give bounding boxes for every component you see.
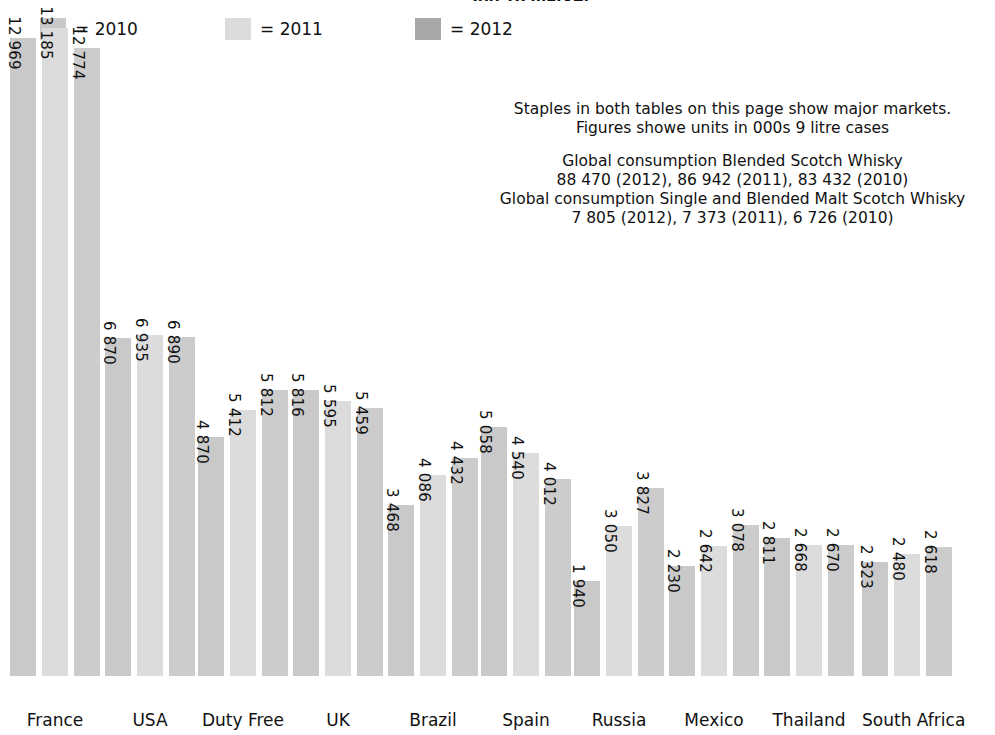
bar-duty-free-2010[interactable]: 4 870 xyxy=(198,437,224,676)
bar-group-duty-free: 4 8705 4125 812 xyxy=(198,0,288,676)
bar-brazil-2011[interactable]: 4 086 xyxy=(420,475,446,676)
bar-group-mexico: 2 2302 6423 078 xyxy=(669,0,759,676)
bar-uk-2011[interactable]: 5 595 xyxy=(325,401,351,676)
bar-value-label: 2 670 xyxy=(823,528,841,572)
x-tick-label-spain: Spain xyxy=(481,710,571,730)
bar-value-label: 5 459 xyxy=(352,391,370,435)
bar-value-label: 2 668 xyxy=(791,528,809,572)
bar-value-label: 2 642 xyxy=(696,529,714,573)
bar-value-label: 5 412 xyxy=(225,393,243,437)
bar-group-brazil: 3 4684 0864 432 xyxy=(388,0,478,676)
bar-value-label: 3 078 xyxy=(728,508,746,552)
bar-value-label: 5 812 xyxy=(257,373,275,417)
bar-brazil-2010[interactable]: 3 468 xyxy=(388,505,414,676)
bar-value-label: 2 323 xyxy=(857,545,875,589)
bar-mexico-2012[interactable]: 3 078 xyxy=(733,525,759,676)
bar-value-label: 3 827 xyxy=(633,471,651,515)
bar-mexico-2010[interactable]: 2 230 xyxy=(669,566,695,676)
x-tick-label-brazil: Brazil xyxy=(388,710,478,730)
bar-south-africa-2011[interactable]: 2 480 xyxy=(894,554,920,676)
bar-group-usa: 6 8706 9356 890 xyxy=(105,0,195,676)
bar-value-label: 12 969 xyxy=(5,16,23,70)
bar-brazil-2012[interactable]: 4 432 xyxy=(452,458,478,676)
bar-value-label: 12 774 xyxy=(69,26,87,80)
x-tick-label-duty-free: Duty Free xyxy=(198,710,288,730)
bar-value-label: 2 618 xyxy=(921,530,939,574)
bar-russia-2011[interactable]: 3 050 xyxy=(606,526,632,676)
bar-value-label: 3 050 xyxy=(601,509,619,553)
bar-usa-2012[interactable]: 6 890 xyxy=(169,337,195,676)
bar-uk-2010[interactable]: 5 816 xyxy=(293,390,319,676)
x-tick-label-uk: UK xyxy=(293,710,383,730)
bar-spain-2011[interactable]: 4 540 xyxy=(513,453,539,676)
bar-value-label: 2 811 xyxy=(759,521,777,565)
bar-value-label: 4 540 xyxy=(508,436,526,480)
bar-south-africa-2012[interactable]: 2 618 xyxy=(926,547,952,676)
chart-plot-area: 12 96913 18512 7746 8706 9356 8904 8705 … xyxy=(0,0,995,706)
bar-duty-free-2011[interactable]: 5 412 xyxy=(230,410,256,676)
bar-group-uk: 5 8165 5955 459 xyxy=(293,0,383,676)
bar-value-label: 5 058 xyxy=(476,410,494,454)
bar-group-france: 12 96913 18512 774 xyxy=(10,0,100,676)
x-tick-label-russia: Russia xyxy=(574,710,664,730)
bar-spain-2010[interactable]: 5 058 xyxy=(481,427,507,676)
bar-thailand-2010[interactable]: 2 811 xyxy=(764,538,790,676)
bar-value-label: 4 086 xyxy=(415,458,433,502)
bar-value-label: 6 870 xyxy=(100,321,118,365)
x-tick-label-mexico: Mexico xyxy=(669,710,759,730)
bar-value-label: 13 185 xyxy=(37,6,55,60)
x-tick-label-thailand: Thailand xyxy=(764,710,854,730)
bar-france-2011[interactable]: 13 185 xyxy=(42,28,68,676)
bar-value-label: 4 012 xyxy=(540,462,558,506)
bar-usa-2011[interactable]: 6 935 xyxy=(137,335,163,676)
bar-group-spain: 5 0584 5404 012 xyxy=(481,0,571,676)
bar-value-label: 4 432 xyxy=(447,441,465,485)
bar-russia-2012[interactable]: 3 827 xyxy=(638,488,664,676)
x-tick-label-france: France xyxy=(10,710,100,730)
x-tick-label-south-africa: South Africa xyxy=(862,710,952,730)
bar-group-south-africa: 2 3232 4802 618 xyxy=(862,0,952,676)
bar-value-label: 6 935 xyxy=(132,318,150,362)
bar-spain-2012[interactable]: 4 012 xyxy=(545,479,571,676)
bar-thailand-2012[interactable]: 2 670 xyxy=(828,545,854,676)
bar-group-thailand: 2 8112 6682 670 xyxy=(764,0,854,676)
chart-x-axis: FranceUSADuty FreeUKBrazilSpainRussiaMex… xyxy=(0,706,995,735)
bar-value-label: 1 940 xyxy=(569,564,587,608)
bar-thailand-2011[interactable]: 2 668 xyxy=(796,545,822,676)
bar-duty-free-2012[interactable]: 5 812 xyxy=(262,390,288,676)
bar-value-label: 3 468 xyxy=(383,489,401,533)
x-tick-label-usa: USA xyxy=(105,710,195,730)
bar-value-label: 4 870 xyxy=(193,420,211,464)
bar-france-2012[interactable]: 12 774 xyxy=(74,48,100,676)
bar-usa-2010[interactable]: 6 870 xyxy=(105,338,131,676)
bar-value-label: 2 480 xyxy=(889,537,907,581)
bar-group-russia: 1 9403 0503 827 xyxy=(574,0,664,676)
bar-value-label: 2 230 xyxy=(664,549,682,593)
bar-value-label: 5 816 xyxy=(288,373,306,417)
bar-france-2010[interactable]: 12 969 xyxy=(10,38,36,676)
bar-russia-2010[interactable]: 1 940 xyxy=(574,581,600,676)
bar-south-africa-2010[interactable]: 2 323 xyxy=(862,562,888,676)
bar-mexico-2011[interactable]: 2 642 xyxy=(701,546,727,676)
bar-value-label: 6 890 xyxy=(164,320,182,364)
bar-uk-2012[interactable]: 5 459 xyxy=(357,408,383,676)
bar-value-label: 5 595 xyxy=(320,384,338,428)
